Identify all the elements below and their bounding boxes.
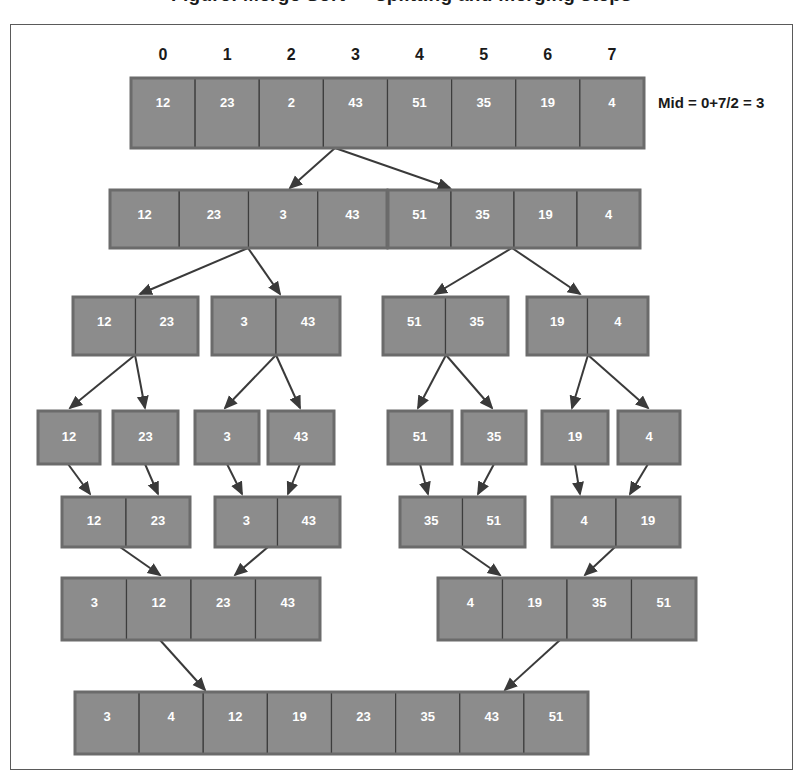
- array-group: 5135194: [388, 190, 640, 248]
- array-group: 343: [212, 297, 340, 355]
- split-merge-arrow: [512, 248, 580, 294]
- array-cell-value: 23: [151, 513, 165, 528]
- split-merge-arrow: [460, 547, 500, 575]
- array-cell-value: 19: [538, 207, 552, 222]
- array-cell-value: 12: [137, 207, 151, 222]
- array-group: 23: [113, 411, 178, 464]
- array-group: 194: [527, 297, 648, 355]
- array-cell: [195, 78, 259, 148]
- split-merge-arrow: [435, 248, 512, 294]
- array-cell-value: 12: [62, 429, 76, 444]
- array-group: 12: [38, 411, 100, 464]
- array-cell-value: 51: [412, 207, 426, 222]
- array-cell: [131, 78, 195, 148]
- array-cell-value: 4: [580, 513, 588, 528]
- index-label: 5: [479, 46, 488, 63]
- array-group: 34121923354351: [75, 692, 588, 754]
- array-cell-value: 19: [550, 314, 564, 329]
- array-cell-value: 35: [424, 513, 438, 528]
- split-merge-arrow: [588, 355, 648, 408]
- array-cell-value: 12: [152, 595, 166, 610]
- split-merge-arrow: [68, 464, 90, 494]
- array-group: 51: [388, 411, 452, 464]
- array-cell-value: 4: [605, 207, 613, 222]
- array-cell-value: 43: [345, 207, 359, 222]
- array-cell-value: 23: [356, 709, 370, 724]
- array-cell-value: 4: [645, 429, 653, 444]
- array-cell: [323, 78, 387, 148]
- array-cell-value: 3: [240, 314, 247, 329]
- array-cell-value: 35: [475, 207, 489, 222]
- array-cell-value: 3: [243, 513, 250, 528]
- split-merge-arrow: [225, 355, 276, 408]
- array-cell-value: 3: [280, 207, 287, 222]
- array-group: 3122343: [62, 578, 320, 640]
- split-merge-arrow: [140, 248, 248, 294]
- array-cell-value: 23: [138, 429, 152, 444]
- array-cell-value: 19: [528, 595, 542, 610]
- split-merge-arrow: [227, 464, 242, 494]
- array-cell-value: 3: [223, 429, 230, 444]
- split-merge-arrow: [505, 640, 560, 690]
- split-merge-arrow: [160, 640, 205, 690]
- array-cell-value: 19: [641, 513, 655, 528]
- array-cell-value: 4: [614, 314, 622, 329]
- array-group: 3: [195, 411, 259, 464]
- array-cell-value: 35: [476, 95, 490, 110]
- array-group: 19: [542, 411, 608, 464]
- array-cell-value: 51: [413, 429, 427, 444]
- array-cell-value: 51: [549, 709, 563, 724]
- array-cell-value: 51: [487, 513, 501, 528]
- index-label: 7: [607, 46, 616, 63]
- split-merge-arrow: [420, 464, 428, 494]
- index-label: 4: [415, 46, 424, 63]
- index-label: 0: [159, 46, 168, 63]
- array-cell-value: 43: [281, 595, 295, 610]
- array-cell-value: 51: [657, 595, 671, 610]
- split-merge-arrow: [248, 248, 280, 294]
- split-merge-arrow: [585, 547, 615, 575]
- array-group: 343: [215, 497, 340, 547]
- array-cell-value: 19: [292, 709, 306, 724]
- array-cell-value: 23: [220, 95, 234, 110]
- index-label: 1: [223, 46, 232, 63]
- array-cell-value: 23: [160, 314, 174, 329]
- array-group: 1223: [73, 297, 198, 355]
- array-cell-value: 35: [470, 314, 484, 329]
- array-cell-value: 43: [485, 709, 499, 724]
- array-cell-value: 4: [608, 95, 616, 110]
- split-merge-arrow: [418, 355, 446, 408]
- split-merge-arrow: [135, 355, 145, 408]
- merge-sort-diagram: 1223243513519412233435135194122334351351…: [0, 0, 803, 775]
- array-cell-value: 2: [288, 95, 295, 110]
- array-cell-value: 23: [216, 595, 230, 610]
- split-merge-arrow: [478, 464, 494, 494]
- split-merge-arrow: [120, 547, 160, 575]
- array-cell: [516, 78, 580, 148]
- array-cell-value: 19: [568, 429, 582, 444]
- array-cell-value: 43: [294, 429, 308, 444]
- split-merge-arrow: [290, 148, 335, 188]
- array-cell-value: 4: [467, 595, 475, 610]
- array-cell-value: 4: [168, 709, 176, 724]
- array-group: 35: [462, 411, 526, 464]
- array-cell-value: 23: [207, 207, 221, 222]
- array-group: 43: [268, 411, 334, 464]
- array-cell: [452, 78, 516, 148]
- array-cell-value: 51: [412, 95, 426, 110]
- split-merge-arrow: [70, 355, 135, 408]
- split-merge-arrow: [572, 355, 588, 408]
- index-label: 3: [351, 46, 360, 63]
- array-group: 12232435135194: [131, 78, 644, 148]
- array-cell-value: 12: [156, 95, 170, 110]
- index-label: 6: [543, 46, 552, 63]
- array-cell-value: 43: [348, 95, 362, 110]
- array-cell-value: 19: [541, 95, 555, 110]
- array-cell-value: 51: [407, 314, 421, 329]
- array-cell-value: 35: [592, 595, 606, 610]
- index-label: 2: [287, 46, 296, 63]
- mid-formula-label: Mid = 0+7/2 = 3: [658, 94, 764, 111]
- split-merge-arrow: [446, 355, 492, 408]
- array-cell-value: 43: [301, 314, 315, 329]
- array-cell: [388, 78, 452, 148]
